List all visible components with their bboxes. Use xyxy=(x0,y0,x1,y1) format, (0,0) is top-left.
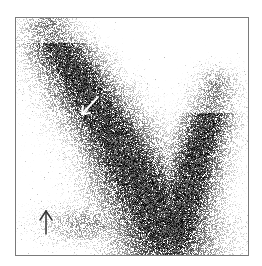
scintigraphy-image xyxy=(16,18,249,256)
scan-frame xyxy=(15,17,249,256)
